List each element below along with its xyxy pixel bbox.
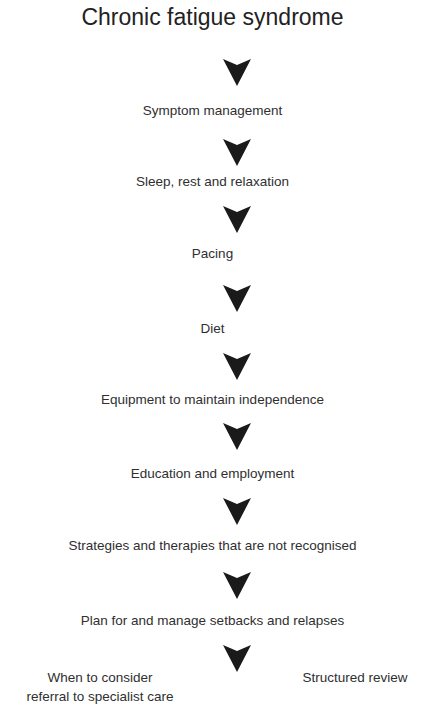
down-arrow-icon bbox=[222, 204, 252, 234]
step-setbacks-relapses: Plan for and manage setbacks and relapse… bbox=[0, 613, 425, 628]
step-symptom-management: Symptom management bbox=[0, 103, 425, 118]
branch-left-line-2: referral to specialist care bbox=[15, 687, 185, 706]
branch-specialist-referral: When to consider referral to specialist … bbox=[15, 668, 185, 706]
down-arrow-icon bbox=[222, 351, 252, 381]
down-arrow-icon bbox=[222, 283, 252, 313]
step-strategies-therapies: Strategies and therapies that are not re… bbox=[0, 538, 425, 553]
down-arrow-icon bbox=[222, 570, 252, 600]
step-diet: Diet bbox=[0, 321, 425, 336]
step-education-employment: Education and employment bbox=[0, 466, 425, 481]
step-equipment: Equipment to maintain independence bbox=[0, 392, 425, 407]
step-sleep-rest-relaxation: Sleep, rest and relaxation bbox=[0, 174, 425, 189]
diagram-title: Chronic fatigue syndrome bbox=[0, 4, 425, 31]
branch-structured-review: Structured review bbox=[290, 668, 420, 687]
down-arrow-icon bbox=[222, 643, 252, 673]
step-pacing: Pacing bbox=[0, 246, 425, 261]
branch-left-line-1: When to consider bbox=[15, 668, 185, 687]
down-arrow-icon bbox=[222, 137, 252, 167]
down-arrow-icon bbox=[222, 421, 252, 451]
down-arrow-icon bbox=[222, 57, 252, 87]
down-arrow-icon bbox=[222, 496, 252, 526]
